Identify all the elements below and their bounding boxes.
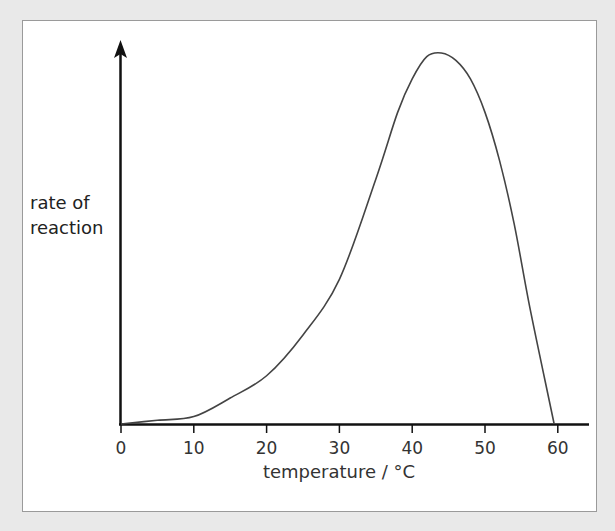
chart-svg: 0102030405060 temperature / °C [0,0,615,531]
rate-curve [121,53,554,424]
x-tick-label: 10 [183,438,205,458]
x-tick-label: 30 [329,438,351,458]
x-tick-label: 40 [401,438,423,458]
x-tick-label: 50 [474,438,496,458]
x-tick-label: 0 [116,438,127,458]
x-axis-tick-labels: 0102030405060 [116,438,569,458]
x-axis-label: temperature / °C [263,461,415,482]
x-tick-label: 60 [547,438,569,458]
x-tick-label: 20 [256,438,278,458]
